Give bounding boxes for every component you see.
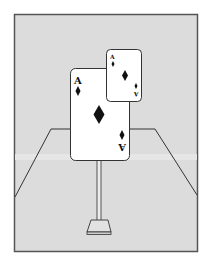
stand-pole <box>97 159 101 227</box>
small-card: A A <box>107 50 142 102</box>
large-card-rank-top: A <box>73 75 82 86</box>
stand-base-edge <box>87 232 111 235</box>
small-card-rank-bottom: A <box>134 91 140 98</box>
large-card-rank-bottom: A <box>118 142 127 153</box>
stand-base <box>87 220 111 232</box>
illustration: A A A A <box>0 0 211 266</box>
small-card-rank-top: A <box>109 53 115 60</box>
